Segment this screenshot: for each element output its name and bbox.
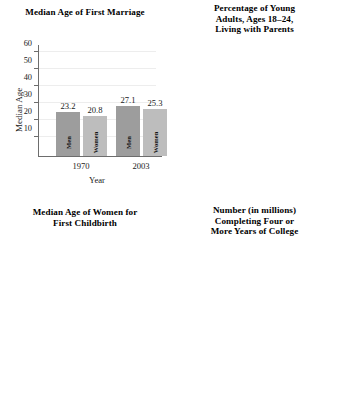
gridline xyxy=(39,102,156,103)
chart-title-line: First Childbirth xyxy=(0,218,170,229)
chart-title-line: Completing Four or xyxy=(170,216,339,227)
chart-panel-median-age-first-childbirth: Median Age of Women for First Childbirth… xyxy=(0,200,170,403)
y-tick-label: 10 xyxy=(24,124,32,133)
chart-title-line: Adults, Ages 18–24, xyxy=(170,14,339,25)
y-tick-label: 60 xyxy=(24,39,32,48)
chart-panel-median-age-first-marriage: Median Age of First Marriage Median Age … xyxy=(0,0,170,200)
chart-title: Median Age of Women for First Childbirth xyxy=(0,207,170,228)
chart-title: Median Age of First Marriage xyxy=(0,7,170,18)
bar: 25.3 Women xyxy=(143,109,167,156)
y-axis-title: Median Age xyxy=(14,88,24,132)
bar-value-label: 27.1 xyxy=(120,95,135,105)
bar-value-label: 23.2 xyxy=(60,101,75,111)
chart-title-line: More Years of College xyxy=(170,226,339,237)
y-tick xyxy=(34,85,38,86)
y-tick-label: 40 xyxy=(24,73,32,82)
four-chart-figure: Median Age of First Marriage Median Age … xyxy=(0,0,339,403)
x-tick-label: 1970 xyxy=(72,161,89,171)
gridline xyxy=(39,85,156,86)
x-axis-line xyxy=(38,156,162,157)
chart-title-line: Percentage of Young xyxy=(170,3,339,14)
chart-panel-college-completion: Number (in millions) Completing Four or … xyxy=(170,200,339,403)
x-axis-title: Year xyxy=(38,175,156,185)
y-tick xyxy=(34,51,38,52)
chart-title-line: Living with Parents xyxy=(170,24,339,35)
y-axis-line xyxy=(38,45,39,157)
gridline xyxy=(39,51,156,52)
y-tick xyxy=(34,119,38,120)
bar-series-label: Women xyxy=(92,132,99,154)
chart-title: Number (in millions) Completing Four or … xyxy=(170,205,339,237)
y-tick xyxy=(34,102,38,103)
chart-title: Percentage of Young Adults, Ages 18–24, … xyxy=(170,3,339,35)
bar: 20.8 Women xyxy=(83,116,107,156)
bar-value-label: 25.3 xyxy=(147,98,162,108)
bar-series-label: Women xyxy=(152,132,159,154)
plot-area: 10 20 30 40 50 60 23.2 Men 20.8 Women 27… xyxy=(38,45,156,157)
bar: 23.2 Men xyxy=(56,112,80,156)
chart-panel-young-adults-living-with-parents: Percentage of Young Adults, Ages 18–24, … xyxy=(170,0,339,200)
bar-series-label: Men xyxy=(125,136,132,149)
y-tick-label: 30 xyxy=(24,90,32,99)
bar-value-label: 20.8 xyxy=(87,105,102,115)
y-tick xyxy=(34,68,38,69)
chart-title-line: Number (in millions) xyxy=(170,205,339,216)
y-tick xyxy=(34,136,38,137)
bar-series-label: Men xyxy=(65,136,72,149)
y-tick-label: 20 xyxy=(24,107,32,116)
x-tick-label: 2003 xyxy=(132,161,149,171)
gridline xyxy=(39,68,156,69)
bar: 27.1 Men xyxy=(116,106,140,156)
chart-title-line: Median Age of Women for xyxy=(0,207,170,218)
y-tick-label: 50 xyxy=(24,56,32,65)
